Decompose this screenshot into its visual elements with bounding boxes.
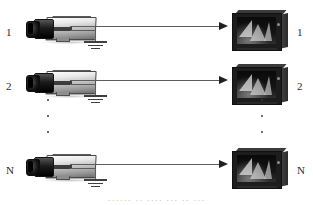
ground-wire-horizontal xyxy=(70,84,95,85)
monitor-case xyxy=(232,13,282,51)
ground-bar-2 xyxy=(88,99,103,100)
ground-bar-3 xyxy=(91,186,100,187)
row-left-index-label: 2 xyxy=(6,81,12,92)
diagram-row: N xyxy=(0,146,313,192)
screen-highlight-right xyxy=(264,160,272,179)
signal-line xyxy=(70,80,225,81)
ground-wire-vertical xyxy=(95,30,96,41)
screen-highlight-right xyxy=(264,22,272,41)
monitor-case xyxy=(232,67,282,105)
ground-bar-1 xyxy=(84,41,107,43)
crt-monitor-icon xyxy=(232,148,290,188)
ground-wire-horizontal xyxy=(70,168,95,169)
ground-bar-1 xyxy=(84,95,107,97)
monitor-screen xyxy=(237,155,276,182)
row-right-index-label: 2 xyxy=(297,81,303,92)
monitor-base xyxy=(237,186,277,188)
ellipsis-dot xyxy=(47,99,49,101)
monitor-power-led xyxy=(277,23,280,26)
ground-bar-1 xyxy=(84,179,107,181)
ellipsis-dot xyxy=(261,131,263,133)
ellipsis-dot xyxy=(261,115,263,117)
camera-lens-hood xyxy=(28,161,33,172)
ground-wire-vertical xyxy=(95,84,96,95)
ground-bar-3 xyxy=(91,102,100,103)
screen-highlight-right xyxy=(264,76,272,95)
earth-ground-icon xyxy=(70,84,140,108)
ellipsis-dot xyxy=(47,115,49,117)
figure-caption: ······ ·· ···· ··· ·· ··· xyxy=(0,196,313,205)
crt-monitor-icon xyxy=(232,64,290,104)
ellipsis-dot xyxy=(261,99,263,101)
signal-line xyxy=(70,164,225,165)
ellipsis-dot xyxy=(47,131,49,133)
earth-ground-icon xyxy=(70,30,140,54)
row-left-index-label: 1 xyxy=(6,27,12,38)
monitor-screen xyxy=(237,71,276,98)
crt-monitor-icon xyxy=(232,10,290,50)
earth-ground-icon xyxy=(70,168,140,192)
ground-wire-vertical xyxy=(95,168,96,179)
vertical-ellipsis-icon xyxy=(259,99,265,133)
ground-wire-horizontal xyxy=(70,30,95,31)
camera-mount-foot xyxy=(56,38,70,42)
row-right-index-label: 1 xyxy=(297,27,303,38)
row-right-index-label: N xyxy=(297,165,305,176)
signal-arrow-icon xyxy=(219,160,228,168)
signal-arrow-icon xyxy=(219,76,228,84)
ground-bar-2 xyxy=(88,183,103,184)
monitor-power-led xyxy=(277,77,280,80)
monitor-screen xyxy=(237,17,276,44)
ground-bar-2 xyxy=(88,45,103,46)
signal-arrow-icon xyxy=(219,22,228,30)
camera-mount-foot xyxy=(56,176,70,180)
camera-lens-hood xyxy=(28,77,33,88)
monitor-base xyxy=(237,48,277,50)
monitor-power-led xyxy=(277,161,280,164)
camera-monitor-diagram: 1 xyxy=(0,0,313,205)
vertical-ellipsis-icon xyxy=(45,99,51,133)
row-left-index-label: N xyxy=(6,165,14,176)
monitor-base xyxy=(237,102,277,104)
diagram-row: 1 xyxy=(0,8,313,54)
camera-lens-hood xyxy=(28,23,33,34)
camera-mount-foot xyxy=(56,92,70,96)
signal-line xyxy=(70,26,225,27)
monitor-case xyxy=(232,151,282,189)
ground-bar-3 xyxy=(91,48,100,49)
